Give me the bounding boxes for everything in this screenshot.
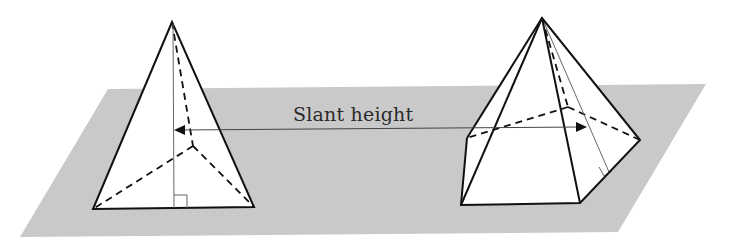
slant-height-label: Slant height <box>293 103 413 125</box>
pyramids-diagram: Slant height <box>0 0 729 242</box>
